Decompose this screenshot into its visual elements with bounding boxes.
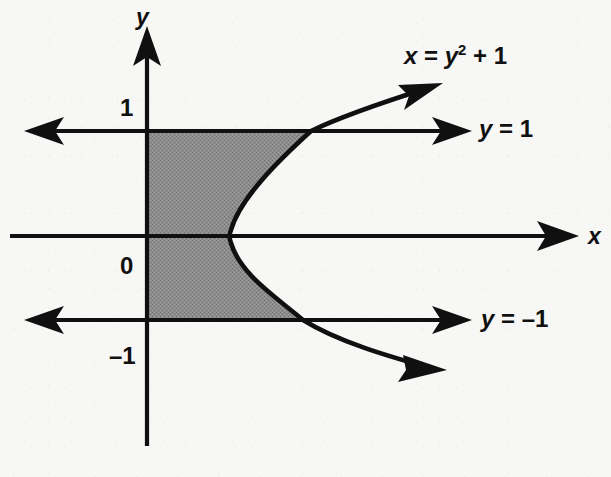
label-curve-equation: x = y2 + 1 — [404, 44, 507, 68]
label-line-y-equals-1-equals: = — [499, 115, 513, 142]
parabola-lower-arrowhead — [398, 355, 447, 382]
label-line-y-equals-minus-1-var: y — [481, 305, 494, 332]
shaded-region-group — [147, 131, 311, 320]
y-axis-label: y — [136, 6, 149, 29]
x-axis-group — [10, 221, 579, 251]
label-line-y-equals-1-value: 1 — [520, 115, 533, 142]
y-axis-label-text: y — [136, 4, 149, 30]
y-tick-label-negative-one: –1 — [109, 344, 136, 368]
label-line-y-equals-minus-1-equals: = — [501, 305, 515, 332]
y-tick-label-one: 1 — [120, 96, 133, 120]
shaded-region — [147, 131, 311, 320]
label-line-y-equals-1-var: y — [479, 115, 492, 142]
label-line-y-equals-minus-1-value: –1 — [522, 305, 549, 332]
math-diagram-canvas — [0, 0, 611, 477]
x-axis-label-text: x — [588, 223, 601, 249]
figure-container: y x 1 0 –1 y = 1 y = –1 x = y2 + 1 — [0, 0, 611, 477]
label-curve-tail: + 1 — [473, 42, 507, 69]
parabola-curve-group — [230, 83, 448, 382]
label-curve-base: y — [445, 42, 458, 69]
label-line-y-equals-minus-1: y = –1 — [481, 307, 548, 331]
label-curve-lhs: x — [404, 42, 417, 69]
label-curve-equals: = — [424, 42, 438, 69]
label-line-y-equals-1: y = 1 — [479, 117, 533, 141]
origin-label-zero: 0 — [120, 254, 133, 278]
x-axis-label: x — [588, 225, 601, 248]
